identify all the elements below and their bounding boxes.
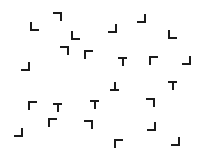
t-shape-icon (53, 103, 62, 112)
l-shape-icon (108, 24, 117, 33)
stroke-bottom (137, 21, 146, 23)
l-shape-icon (60, 46, 69, 55)
stroke-top (28, 101, 37, 103)
stroke-bottom (147, 129, 156, 131)
stroke-bottom (182, 63, 191, 65)
l-shape-icon (30, 22, 39, 31)
stroke-vcenter (94, 100, 96, 109)
l-shape-icon (28, 101, 37, 110)
l-shape-icon (53, 12, 62, 21)
stroke-vcenter (57, 103, 59, 112)
l-shape-icon (168, 30, 177, 39)
stroke-right (67, 46, 69, 55)
stroke-bottom (21, 69, 30, 71)
stroke-top (114, 139, 123, 141)
stroke-bottom (14, 135, 23, 137)
l-shape-icon (182, 56, 191, 65)
l-shape-icon (114, 139, 123, 148)
stroke-top (149, 56, 158, 58)
visual-search-display (0, 0, 206, 159)
stroke-right (60, 12, 62, 21)
stroke-bottom (30, 29, 39, 31)
stroke-bottom (108, 31, 117, 33)
l-shape-icon (149, 56, 158, 65)
l-shape-icon (84, 50, 93, 59)
stroke-top (48, 118, 57, 120)
l-shape-icon (48, 118, 57, 127)
l-shape-icon (21, 62, 30, 71)
stroke-bottom (168, 37, 177, 39)
stroke-right (153, 98, 155, 107)
l-shape-icon (84, 120, 93, 129)
t-shape-icon (168, 81, 177, 90)
l-shape-icon (171, 137, 180, 146)
t-shape-icon (90, 100, 99, 109)
l-shape-icon (137, 14, 146, 23)
l-shape-icon (147, 122, 156, 131)
stroke-right (91, 120, 93, 129)
stroke-vcenter (114, 82, 116, 91)
l-shape-icon (71, 31, 80, 40)
stroke-bottom (171, 144, 180, 146)
l-shape-icon (146, 98, 155, 107)
t-shape-icon (118, 57, 127, 66)
t-shape-icon (110, 82, 119, 91)
stroke-bottom (71, 38, 80, 40)
stroke-vcenter (172, 81, 174, 90)
stroke-top (84, 50, 93, 52)
l-shape-icon (14, 128, 23, 137)
stroke-vcenter (122, 57, 124, 66)
